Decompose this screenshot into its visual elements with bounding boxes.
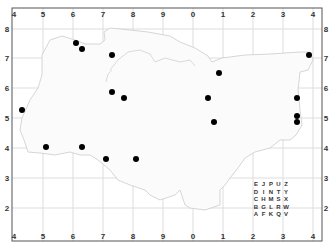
legend-letter: T <box>277 189 281 195</box>
legend-letter: S <box>276 196 280 202</box>
top-axis-label: 1 <box>221 10 226 19</box>
right-axis-label: 4 <box>324 144 329 153</box>
location-marker[interactable] <box>43 144 49 150</box>
right-axis-label: 7 <box>324 54 329 63</box>
location-marker[interactable] <box>103 156 109 162</box>
bottom-axis-label: 9 <box>161 232 166 241</box>
bottom-axis-label: 0 <box>191 232 196 241</box>
top-axis-label: 3 <box>281 10 286 19</box>
legend-letter: N <box>269 189 273 195</box>
bottom-axis-label: 4 <box>12 232 17 241</box>
legend-letter: Y <box>284 189 288 195</box>
left-axis-label: 6 <box>5 84 10 93</box>
bottom-axis-label: 6 <box>71 232 76 241</box>
legend-letter: E <box>254 181 258 187</box>
right-axis-label: 6 <box>324 84 329 93</box>
legend-letter: B <box>254 204 259 210</box>
top-axis-label: 0 <box>191 10 196 19</box>
location-marker[interactable] <box>19 107 25 113</box>
location-marker[interactable] <box>294 113 300 119</box>
bottom-axis-label: 8 <box>131 232 136 241</box>
legend-letter: X <box>284 196 288 202</box>
location-marker[interactable] <box>306 52 312 58</box>
top-axis-label: 7 <box>101 10 106 19</box>
location-marker[interactable] <box>205 95 211 101</box>
legend-letter: D <box>254 189 259 195</box>
location-marker[interactable] <box>121 95 127 101</box>
bottom-axis-label: 7 <box>101 232 106 241</box>
right-axis-label: 3 <box>324 174 329 183</box>
left-axis-label: 7 <box>5 54 10 63</box>
bottom-axis-label: 1 <box>221 232 226 241</box>
left-axis-label: 5 <box>5 114 10 123</box>
legend-letter: Q <box>276 211 281 217</box>
location-marker[interactable] <box>133 156 139 162</box>
location-marker[interactable] <box>294 95 300 101</box>
legend-letter: Z <box>284 181 288 187</box>
right-axis-label: 8 <box>324 25 329 34</box>
top-axis-label: 4 <box>311 10 316 19</box>
top-axis-label: 5 <box>41 10 46 19</box>
legend-letter: W <box>283 204 289 210</box>
legend-letter: L <box>269 204 273 210</box>
top-axis-label: 4 <box>12 10 17 19</box>
bottom-axis-label: 4 <box>311 232 316 241</box>
bottom-axis-label: 2 <box>251 232 256 241</box>
legend-letter: I <box>263 189 265 195</box>
location-marker[interactable] <box>79 46 85 52</box>
legend-letter: J <box>262 181 265 187</box>
legend-letter: F <box>262 211 266 217</box>
legend-letter: U <box>276 181 280 187</box>
map-canvas[interactable]: 456789012344567890123487654328765432EJPU… <box>0 0 330 251</box>
bottom-axis-label: 5 <box>41 232 46 241</box>
legend-letter: P <box>269 181 273 187</box>
bottom-axis-label: 3 <box>281 232 286 241</box>
top-axis-label: 6 <box>71 10 76 19</box>
location-marker[interactable] <box>294 119 300 125</box>
left-axis-label: 3 <box>5 174 10 183</box>
legend-letter: C <box>254 196 259 202</box>
location-marker[interactable] <box>73 40 79 46</box>
location-marker[interactable] <box>79 144 85 150</box>
legend-letter: V <box>284 211 288 217</box>
location-marker[interactable] <box>211 119 217 125</box>
top-axis-label: 8 <box>131 10 136 19</box>
legend-letter: M <box>269 196 274 202</box>
top-axis-label: 9 <box>161 10 166 19</box>
left-axis-label: 2 <box>5 204 10 213</box>
map-view[interactable]: 456789012344567890123487654328765432EJPU… <box>0 0 330 251</box>
left-axis-label: 8 <box>5 25 10 34</box>
legend-letter: K <box>269 211 274 217</box>
top-axis-label: 2 <box>251 10 256 19</box>
legend-letter: G <box>261 204 266 210</box>
grid-letter-legend: EJPUZDINTYCHMSXBGLRWAFKQV <box>254 181 289 217</box>
right-axis-label: 2 <box>324 204 329 213</box>
left-axis-label: 4 <box>5 144 10 153</box>
legend-letter: R <box>276 204 281 210</box>
right-axis-label: 5 <box>324 114 329 123</box>
location-marker[interactable] <box>109 89 115 95</box>
location-marker[interactable] <box>216 70 222 76</box>
legend-letter: H <box>261 196 265 202</box>
legend-letter: A <box>254 211 259 217</box>
location-marker[interactable] <box>109 52 115 58</box>
